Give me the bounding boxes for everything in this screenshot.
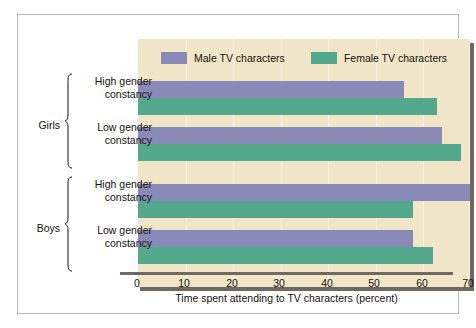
figure-frame: Male TV characters Female TV characters …	[17, 14, 459, 314]
plot-area: Male TV characters Female TV characters	[138, 39, 470, 287]
bar-boys-low-male	[138, 230, 413, 247]
x-tick-20: 20	[226, 277, 238, 289]
x-axis-title: Time spent attending to TV characters (p…	[120, 292, 453, 304]
group-label-girls: Girls	[24, 119, 60, 131]
chart-legend: Male TV characters Female TV characters	[138, 47, 470, 69]
category-label-boys-high-line1: High gender	[74, 178, 152, 191]
category-label-girls-low-line2: constancy	[74, 134, 152, 147]
legend-entry-male: Male TV characters	[161, 52, 285, 64]
category-label-boys-low: Low gender constancy	[74, 224, 152, 249]
category-label-girls-high-line2: constancy	[74, 88, 152, 101]
legend-swatch-male-icon	[161, 52, 187, 64]
plot-shadow-right	[470, 43, 474, 291]
category-label-girls-low-line1: Low gender	[74, 121, 152, 134]
legend-label-female: Female TV characters	[344, 52, 447, 64]
legend-entry-female: Female TV characters	[311, 52, 447, 64]
x-tick-70: 70	[462, 277, 474, 289]
category-label-boys-low-line2: constancy	[74, 237, 152, 250]
category-label-girls-high-line1: High gender	[74, 75, 152, 88]
group-label-boys: Boys	[24, 222, 60, 234]
category-label-boys-low-line1: Low gender	[74, 224, 152, 237]
bar-girls-low-male	[138, 127, 442, 144]
x-tick-60: 60	[416, 277, 428, 289]
x-tick-40: 40	[321, 277, 333, 289]
bar-boys-low-female	[138, 247, 433, 264]
category-label-boys-high-line2: constancy	[74, 191, 152, 204]
legend-label-male: Male TV characters	[194, 52, 285, 64]
bar-boys-high-female	[138, 201, 413, 218]
bar-boys-high-male	[138, 184, 470, 201]
bar-girls-high-male	[138, 81, 404, 98]
x-tick-50: 50	[368, 277, 380, 289]
x-tick-30: 30	[273, 277, 285, 289]
category-label-boys-high: High gender constancy	[74, 178, 152, 203]
x-axis-line	[120, 272, 453, 275]
bar-girls-low-female	[138, 144, 461, 161]
x-tick-10: 10	[178, 277, 190, 289]
category-label-girls-low: Low gender constancy	[74, 121, 152, 146]
category-label-girls-high: High gender constancy	[74, 75, 152, 100]
bar-girls-high-female	[138, 98, 437, 115]
legend-swatch-female-icon	[311, 52, 337, 64]
group-brace-girls	[64, 73, 73, 169]
x-tick-0: 0	[134, 277, 140, 289]
group-brace-boys	[64, 176, 73, 272]
